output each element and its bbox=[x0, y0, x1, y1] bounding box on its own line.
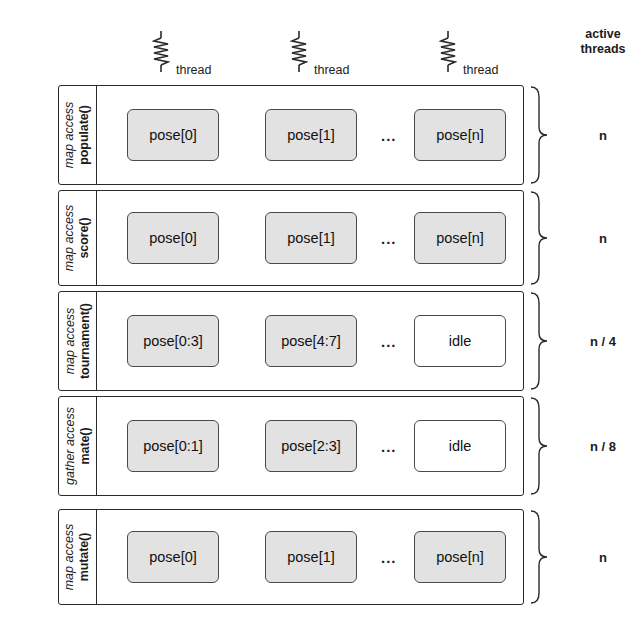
row-cells: pose[0] pose[1] ... pose[n] bbox=[97, 510, 523, 604]
active-threads-header: active threads bbox=[566, 27, 639, 57]
thread-header-label-0: thread bbox=[176, 63, 220, 77]
row-ellipsis: ... bbox=[381, 230, 397, 247]
cell-thread-n: pose[n] bbox=[414, 212, 506, 264]
cell-thread-1: pose[1] bbox=[265, 109, 357, 161]
active-threads-header-line1: active bbox=[566, 27, 639, 42]
cell-thread-1: pose[4:7] bbox=[265, 315, 357, 367]
row-cells: pose[0:1] pose[2:3] ... idle bbox=[97, 397, 523, 495]
brace-score bbox=[528, 190, 550, 286]
active-threads-mate: n / 8 bbox=[566, 439, 639, 454]
cell-thread-0: pose[0:1] bbox=[127, 420, 219, 472]
kernel-row-populate: populate() map access pose[0] pose[1] ..… bbox=[58, 85, 524, 185]
active-threads-score: n bbox=[566, 231, 639, 246]
row-ellipsis: ... bbox=[381, 333, 397, 350]
row-function-name: mutate() bbox=[78, 533, 93, 582]
cell-thread-1: pose[1] bbox=[265, 531, 357, 583]
kernel-row-score: score() map access pose[0] pose[1] ... p… bbox=[58, 190, 524, 286]
row-access-type: map access bbox=[63, 205, 78, 272]
diagram-canvas: thread 0 thread 1 thread n active thread… bbox=[0, 0, 639, 631]
row-label-score: score() map access bbox=[59, 191, 97, 285]
kernel-row-tournament: tournament() map access pose[0:3] pose[4… bbox=[58, 291, 524, 391]
row-label-tournament: tournament() map access bbox=[59, 292, 97, 390]
brace-mate bbox=[528, 396, 550, 496]
thread-squiggle-icon bbox=[290, 30, 308, 74]
row-ellipsis: ... bbox=[381, 127, 397, 144]
row-label-mutate: mutate() map access bbox=[59, 510, 97, 604]
row-cells: pose[0:3] pose[4:7] ... idle bbox=[97, 292, 523, 390]
row-access-type: map access bbox=[63, 524, 78, 591]
row-label-populate: populate() map access bbox=[59, 86, 97, 184]
thread-header-label-n: thread bbox=[463, 63, 507, 77]
brace-populate bbox=[528, 85, 550, 185]
cell-thread-n: idle bbox=[414, 315, 506, 367]
kernel-row-mutate: mutate() map access pose[0] pose[1] ... … bbox=[58, 509, 524, 605]
cell-thread-0: pose[0] bbox=[127, 212, 219, 264]
cell-thread-n: pose[n] bbox=[414, 109, 506, 161]
cell-thread-0: pose[0:3] bbox=[127, 315, 219, 367]
row-ellipsis: ... bbox=[381, 549, 397, 566]
brace-tournament bbox=[528, 291, 550, 391]
row-access-type: map access bbox=[63, 102, 78, 169]
row-access-type: gather access bbox=[63, 407, 78, 485]
cell-thread-0: pose[0] bbox=[127, 109, 219, 161]
row-function-name: mate() bbox=[78, 428, 93, 465]
row-function-name: tournament() bbox=[78, 303, 93, 379]
thread-squiggle-icon bbox=[152, 30, 170, 74]
thread-header-label-1: thread bbox=[314, 63, 358, 77]
thread-squiggle-icon bbox=[439, 30, 457, 74]
cell-thread-n: idle bbox=[414, 420, 506, 472]
active-threads-mutate: n bbox=[566, 550, 639, 565]
active-threads-header-line2: threads bbox=[566, 42, 639, 57]
row-function-name: populate() bbox=[78, 105, 93, 164]
row-cells: pose[0] pose[1] ... pose[n] bbox=[97, 191, 523, 285]
row-ellipsis: ... bbox=[381, 438, 397, 455]
active-threads-tournament: n / 4 bbox=[566, 334, 639, 349]
cell-thread-1: pose[1] bbox=[265, 212, 357, 264]
cell-thread-0: pose[0] bbox=[127, 531, 219, 583]
brace-mutate bbox=[528, 509, 550, 605]
active-threads-populate: n bbox=[566, 128, 639, 143]
row-label-mate: mate() gather access bbox=[59, 397, 97, 495]
cell-thread-n: pose[n] bbox=[414, 531, 506, 583]
kernel-row-mate: mate() gather access pose[0:1] pose[2:3]… bbox=[58, 396, 524, 496]
row-access-type: map access bbox=[63, 308, 78, 375]
row-cells: pose[0] pose[1] ... pose[n] bbox=[97, 86, 523, 184]
cell-thread-1: pose[2:3] bbox=[265, 420, 357, 472]
row-function-name: score() bbox=[78, 218, 93, 259]
